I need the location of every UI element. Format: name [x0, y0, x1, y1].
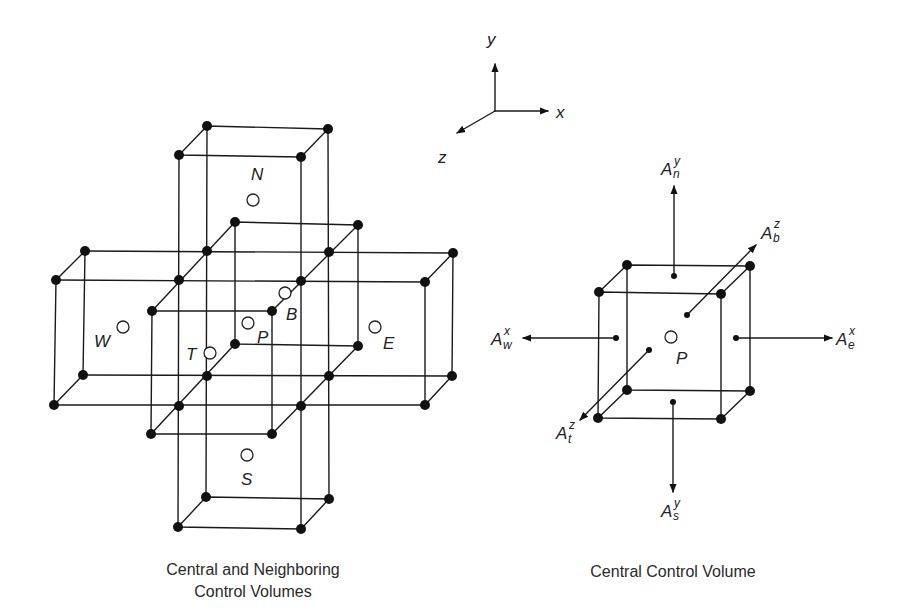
svg-text:x: x	[503, 324, 511, 338]
center-p-marker	[665, 331, 677, 343]
svg-text:z: z	[568, 418, 575, 432]
node-n-label: N	[251, 165, 264, 184]
svg-text:A: A	[660, 502, 672, 521]
face-area-label-north: A y n	[660, 154, 681, 181]
axis-triad: y x z	[437, 30, 565, 167]
z-axis-arrow	[457, 111, 495, 133]
svg-text:b: b	[773, 231, 780, 245]
svg-text:A: A	[835, 330, 847, 349]
face-area-label-west: A x w	[490, 324, 513, 352]
svg-text:A: A	[555, 424, 567, 443]
neighboring-volumes-panel: N S W E P T B Central and Neighboring Co…	[49, 121, 458, 600]
node-p-label: P	[257, 328, 269, 347]
z-axis-label: z	[437, 148, 447, 167]
node-e-marker	[369, 321, 381, 333]
node-t-label: T	[186, 345, 198, 364]
face-area-label-bottom: A z b	[760, 217, 780, 245]
top-normal-arrow	[580, 350, 649, 420]
left-caption-line1: Central and Neighboring	[166, 561, 339, 578]
node-s-label: S	[241, 470, 253, 489]
svg-text:y: y	[673, 496, 681, 510]
left-caption-line2: Control Volumes	[194, 583, 311, 600]
vertical-column	[178, 126, 329, 529]
x-axis-label: x	[555, 103, 565, 122]
svg-text:x: x	[848, 324, 856, 338]
face-area-label-east: A x e	[835, 324, 856, 352]
svg-text:A: A	[490, 330, 502, 349]
node-p-marker	[242, 317, 254, 329]
horizontal-beam	[54, 251, 453, 405]
control-volume-diagram: y x z	[0, 0, 903, 615]
svg-text:t: t	[568, 432, 572, 446]
face-area-label-south: A y s	[660, 496, 681, 523]
face-normal-arrows	[523, 186, 832, 492]
node-w-label: W	[94, 332, 112, 351]
center-p-label: P	[676, 349, 688, 368]
svg-text:A: A	[760, 224, 772, 243]
node-n-marker	[247, 194, 259, 206]
node-s-marker	[241, 449, 253, 461]
right-caption: Central Control Volume	[590, 563, 756, 580]
node-b-marker	[279, 287, 291, 299]
svg-text:A: A	[660, 160, 672, 179]
svg-text:w: w	[503, 338, 513, 352]
svg-text:y: y	[673, 154, 681, 168]
svg-text:z: z	[773, 217, 780, 231]
svg-text:e: e	[848, 338, 855, 352]
node-t-marker	[204, 347, 216, 359]
svg-text:n: n	[673, 167, 680, 181]
node-w-marker	[117, 321, 129, 333]
y-axis-label: y	[486, 30, 497, 49]
svg-text:s: s	[673, 509, 679, 523]
central-volume-panel: P A y n A y s A x w A x e A z b A z	[490, 154, 856, 580]
node-b-label: B	[286, 305, 297, 324]
centroid-markers: N S W E P T B	[94, 165, 395, 489]
face-area-label-top: A z t	[555, 418, 575, 446]
node-e-label: E	[383, 334, 395, 353]
